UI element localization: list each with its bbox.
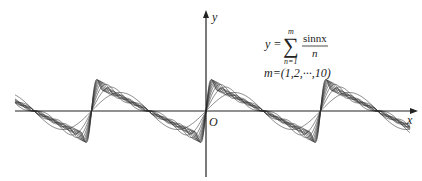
fourier-series-plot: x y O y = ∑ m n=1 sinnx n m=(1,2,···,10) (0, 0, 422, 181)
fraction-denominator: n (312, 47, 318, 59)
y-axis-label: y (211, 10, 218, 24)
sum-lower-limit: n=1 (284, 57, 297, 66)
sum-upper-limit: m (288, 27, 294, 36)
x-axis-label: x (406, 113, 413, 127)
formula-lhs: y = (264, 37, 281, 51)
formula-annotation: y = ∑ m n=1 sinnx n m=(1,2,···,10) (264, 27, 331, 80)
m-range-label: m=(1,2,···,10) (264, 66, 331, 80)
fraction-numerator: sinnx (303, 32, 327, 44)
origin-label: O (209, 115, 218, 129)
y-axis-arrow-icon (203, 10, 209, 18)
sum-symbol: ∑ (283, 33, 299, 58)
